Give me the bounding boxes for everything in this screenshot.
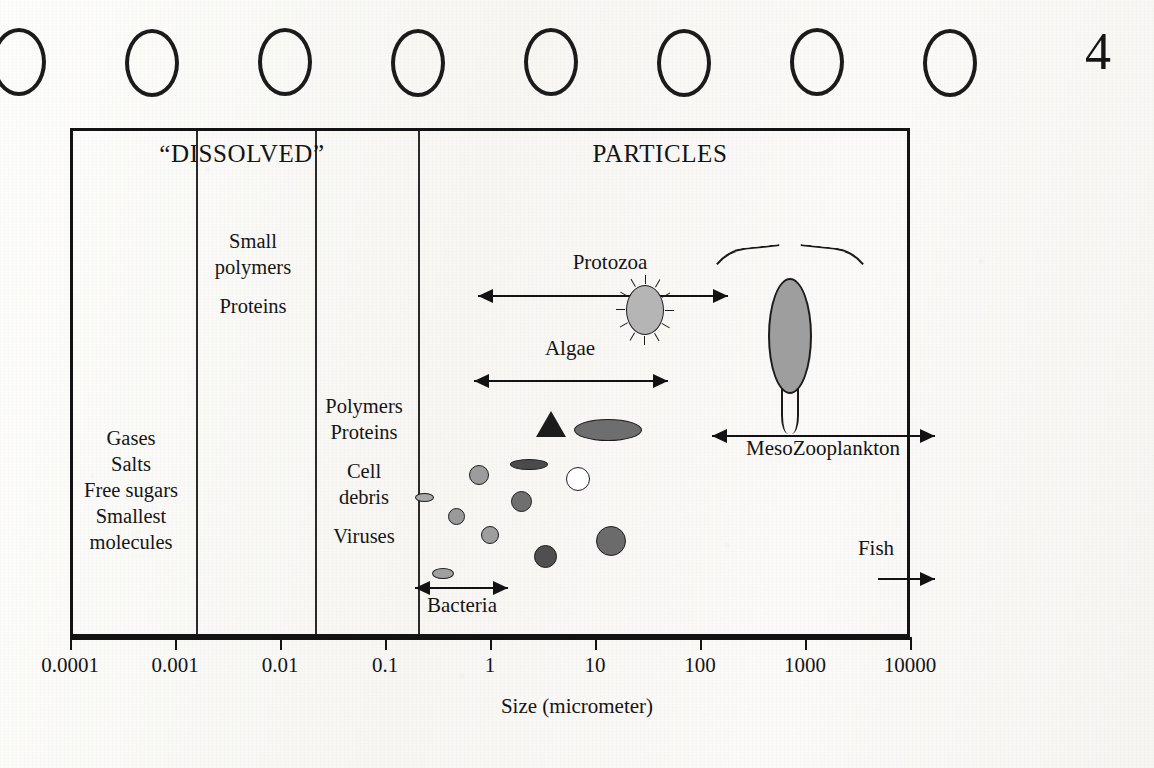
particle-triangle: [536, 411, 566, 437]
column-spacer: [325, 510, 402, 523]
particle-ellipse: [574, 419, 642, 441]
column-line: Free sugars: [84, 477, 178, 503]
particle-circle: [448, 508, 465, 525]
axis-tick: [385, 637, 387, 650]
ciliate-cilium: [662, 293, 670, 298]
arrow-head-left-protozoa: [478, 289, 493, 303]
column-line: Cell: [325, 458, 402, 484]
binding-hole: [391, 29, 445, 97]
ciliate-cilium: [645, 275, 646, 284]
axis-tick-label: 0.1: [372, 653, 398, 678]
arrow-head-right-fish: [920, 572, 935, 586]
column-line: Polymers: [325, 393, 402, 419]
particle-circle: [481, 526, 499, 544]
axis-tick-label: 1000: [784, 653, 826, 678]
column-line: Smallest: [84, 503, 178, 529]
ciliate-cilium: [631, 279, 636, 287]
column-line: molecules: [84, 529, 178, 555]
page-number: 4: [1085, 22, 1111, 81]
ciliate-cilium: [644, 336, 645, 345]
axis-tick: [595, 637, 597, 650]
column-line: Proteins: [215, 293, 291, 319]
axis-tick: [700, 637, 702, 650]
binding-hole: [258, 28, 312, 96]
arrow-label-fish: Fish: [858, 536, 894, 561]
arrow-head-left-mesozooplankton: [712, 429, 727, 443]
axis-tick: [490, 637, 492, 650]
axis-tick: [175, 637, 177, 650]
column-line: Viruses: [325, 523, 402, 549]
particle-ellipse: [415, 493, 434, 502]
ciliate-cilium: [654, 333, 659, 341]
column-spacer: [325, 445, 402, 458]
section-title-particles: PARTICLES: [593, 140, 728, 168]
axis-tick-label: 1: [485, 653, 496, 678]
column-line: Small: [215, 228, 291, 254]
binding-hole: [524, 28, 578, 96]
axis-tick-label: 100: [684, 653, 716, 678]
particle-circle: [511, 491, 532, 512]
arrow-head-left-algae: [474, 374, 489, 388]
arrow-label-protozoa: Protozoa: [573, 250, 648, 275]
particle-circle: [566, 467, 590, 491]
axis-tick: [910, 637, 912, 650]
particle-circle: [596, 526, 626, 556]
axis-tick: [805, 637, 807, 650]
ciliate-cilium: [655, 280, 660, 288]
binding-hole: [125, 29, 179, 97]
arrow-head-right-mesozooplankton: [920, 429, 935, 443]
arrow-label-algae: Algae: [545, 336, 595, 361]
axis-tick-label: 0.01: [262, 653, 299, 678]
binding-hole: [923, 29, 977, 97]
axis-tick: [280, 637, 282, 650]
polymers-viruses-column: PolymersProteins Celldebris Viruses: [325, 393, 402, 549]
particle-circle: [534, 545, 557, 568]
axis-tick-label: 0.001: [151, 653, 198, 678]
particle-ellipse: [432, 568, 454, 579]
column-spacer: [215, 280, 291, 293]
copepod-body: [768, 278, 812, 394]
ciliate-cilium: [620, 292, 628, 297]
arrow-line-protozoa: [478, 295, 728, 297]
axis-tick-label: 0.0001: [41, 653, 99, 678]
column-divider-1: [315, 131, 317, 634]
ciliate-protozoan-icon: [617, 279, 673, 341]
arrow-label-bacteria: Bacteria: [427, 593, 497, 618]
small-polymers-column: Smallpolymers Proteins: [215, 228, 291, 319]
axis-tick: [70, 637, 72, 650]
smallest-molecules-column: GasesSaltsFree sugarsSmallestmolecules: [84, 425, 178, 555]
column-divider-2: [418, 131, 420, 634]
arrow-head-right-algae: [653, 374, 668, 388]
particle-ellipse: [510, 459, 548, 470]
ciliate-cilium: [630, 332, 635, 340]
x-axis-title: Size (micrometer): [0, 694, 1154, 719]
column-line: Gases: [84, 425, 178, 451]
ciliate-cilium: [665, 310, 674, 311]
ciliate-body: [626, 285, 664, 335]
binding-hole: [790, 28, 844, 96]
section-title-dissolved: “DISSOLVED”: [159, 140, 324, 168]
axis-tick-label: 10000: [884, 653, 937, 678]
binding-hole: [657, 29, 711, 97]
column-line: Salts: [84, 451, 178, 477]
axis-tick-label: 10: [585, 653, 606, 678]
ciliate-cilium: [616, 309, 625, 310]
ciliate-cilium: [662, 323, 670, 328]
copepod-tail: [781, 388, 799, 434]
copepod-zooplankton-icon: [742, 236, 838, 446]
particle-circle: [469, 465, 489, 485]
ciliate-cilium: [619, 322, 627, 327]
column-divider-0: [196, 131, 198, 634]
arrow-line-algae: [474, 380, 668, 382]
